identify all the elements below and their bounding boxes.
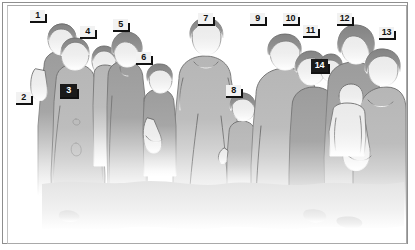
callout-leader-10 <box>298 17 300 26</box>
callout-leader-14 <box>328 64 330 74</box>
callout-label-11: 11 <box>303 25 325 40</box>
callout-number-12: 12 <box>337 13 352 24</box>
callout-leader-9 <box>265 17 267 26</box>
callout-label-13: 13 <box>379 27 401 42</box>
callout-leader-6 <box>151 56 153 65</box>
callout-leader-7 <box>213 17 215 26</box>
callout-label-8: 8 <box>226 85 248 100</box>
callout-number-1: 1 <box>30 10 45 21</box>
callout-number-13: 13 <box>379 27 394 38</box>
callout-label-2: 2 <box>16 92 38 107</box>
callout-number-11: 11 <box>303 25 318 36</box>
illustration-figure: 1 2 3 4 5 6 7 8 9 <box>0 0 415 250</box>
callout-label-12: 12 <box>337 13 359 28</box>
callout-leader-3 <box>77 89 79 99</box>
group-silhouette-artwork <box>8 6 406 243</box>
callout-number-9: 9 <box>250 13 265 24</box>
callout-label-6: 6 <box>136 52 158 67</box>
callout-number-4: 4 <box>80 26 95 37</box>
callout-leader-8 <box>241 89 243 98</box>
callout-number-7: 7 <box>198 13 213 24</box>
callout-leader-5 <box>128 23 130 32</box>
callout-label-10: 10 <box>283 13 305 28</box>
callout-leader-11 <box>318 29 320 38</box>
callout-label-14: 14 <box>311 59 333 74</box>
callout-label-7: 7 <box>198 13 220 28</box>
callout-number-2: 2 <box>16 92 31 103</box>
callout-leader-12 <box>352 17 354 26</box>
callout-label-5: 5 <box>113 19 135 34</box>
callout-number-6: 6 <box>136 52 151 63</box>
callout-number-10: 10 <box>283 13 298 24</box>
callout-number-5: 5 <box>113 19 128 30</box>
callout-label-1: 1 <box>30 10 52 25</box>
callout-label-4: 4 <box>80 26 102 41</box>
callout-number-8: 8 <box>226 85 241 96</box>
callout-label-3: 3 <box>60 84 82 99</box>
callout-leader-1 <box>45 14 47 23</box>
callout-leader-2 <box>31 96 33 105</box>
callout-leader-4 <box>95 30 97 39</box>
callout-label-9: 9 <box>250 13 272 28</box>
callout-leader-13 <box>394 31 396 40</box>
